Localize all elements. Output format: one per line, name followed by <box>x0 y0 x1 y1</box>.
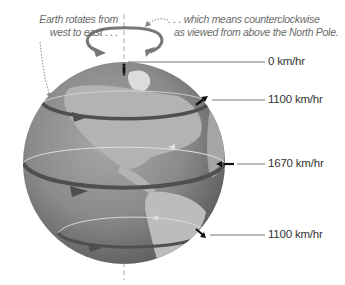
speed-label-pole: 0 km/hr <box>268 55 305 67</box>
caption-left-line-2: west to east . . . <box>18 26 118 39</box>
caption-right-line-1: . . . which means counterclockwise <box>168 13 345 26</box>
speed-label-mid-south: 1100 km/hr <box>268 228 323 240</box>
caption-right-pointer <box>147 19 168 25</box>
earth-globe <box>23 62 225 270</box>
caption-right: . . . which means counterclockwise as vi… <box>168 13 345 39</box>
caption-left-pointer <box>40 42 50 96</box>
speed-label-equator: 1670 km/hr <box>268 157 324 169</box>
diagram-canvas <box>0 0 345 285</box>
speed-label-mid-north: 1100 km/hr <box>268 93 323 105</box>
caption-right-line-2: as viewed from above the North Pole. <box>168 26 345 39</box>
velocity-arrow-mid-south <box>196 229 206 238</box>
caption-left: Earth rotates from west to east . . . <box>18 13 118 39</box>
caption-left-line-1: Earth rotates from <box>18 13 118 26</box>
